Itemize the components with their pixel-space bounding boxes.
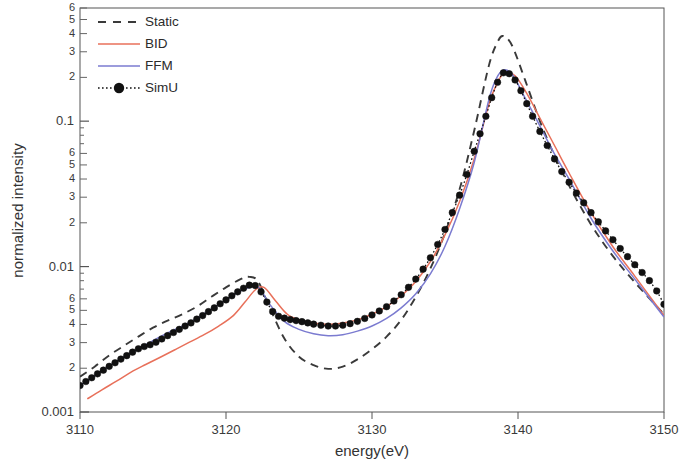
x-tick-label: 3120 <box>212 422 241 437</box>
y-tick-label-major: 0.001 <box>18 404 74 419</box>
y-tick-label-minor: 2 <box>55 216 75 228</box>
series-bid <box>87 72 664 399</box>
y-tick-label-minor: 6 <box>55 1 75 13</box>
figure-root: normalized intensity energy(eV) 31103120… <box>0 0 680 469</box>
x-axis-title: energy(eV) <box>80 442 664 459</box>
legend-item-simu[interactable] <box>98 83 140 93</box>
plot-canvas <box>0 0 680 469</box>
legend-label-bid: BID <box>145 36 168 51</box>
y-tick-label-minor: 3 <box>55 45 75 57</box>
y-tick-label-minor: 6 <box>55 292 75 304</box>
y-tick-label-minor: 2 <box>55 70 75 82</box>
legend-label-static: Static <box>145 14 179 29</box>
y-tick-label-minor: 2 <box>55 361 75 373</box>
x-tick-label: 3110 <box>66 422 94 437</box>
y-tick-label-minor: 5 <box>55 13 75 25</box>
y-tick-label-minor: 5 <box>55 303 75 315</box>
legend-label-simu: SimU <box>145 80 178 95</box>
y-tick-label-minor: 4 <box>55 317 75 329</box>
series-simu <box>77 70 668 389</box>
y-axis-title: normalized intensity <box>9 143 26 278</box>
x-tick-label: 3140 <box>504 422 533 437</box>
y-tick-label-major: 0.01 <box>18 259 74 274</box>
y-tick-label-minor: 4 <box>55 172 75 184</box>
y-tick-label-minor: 3 <box>55 190 75 202</box>
x-tick-label: 3150 <box>650 422 679 437</box>
y-tick-label-minor: 5 <box>55 158 75 170</box>
y-tick-label-minor: 6 <box>55 146 75 158</box>
y-tick-label-major: 0.1 <box>18 113 74 128</box>
y-tick-label-minor: 3 <box>55 336 75 348</box>
legend <box>98 22 140 93</box>
x-tick-label: 3130 <box>358 422 387 437</box>
legend-label-ffm: FFM <box>145 58 173 73</box>
y-tick-label-minor: 4 <box>55 27 75 39</box>
y-axis-title-container: normalized intensity <box>2 0 32 420</box>
